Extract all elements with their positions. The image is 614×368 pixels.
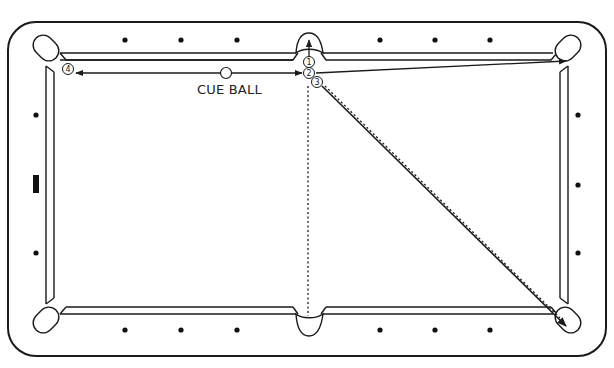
rail-left [46, 66, 54, 304]
pocket-top-left [29, 31, 63, 65]
ball-1: 1 [304, 57, 315, 68]
table-marker [33, 175, 39, 193]
pocket-top-right [551, 31, 585, 65]
pocket-bottom-side [296, 314, 323, 336]
path-3-to-bottom-right [322, 86, 566, 326]
cue-ball-label: CUE BALL [197, 82, 262, 97]
rail-right [560, 66, 568, 304]
svg-text:2: 2 [306, 69, 311, 78]
svg-text:3: 3 [314, 78, 319, 87]
pocket-bottom-left [29, 303, 63, 337]
pool-table-diagram: 1 2 3 4 [0, 0, 614, 368]
ball-4: 4 [63, 64, 74, 75]
path-2-to-top-right [316, 61, 566, 73]
svg-text:1: 1 [306, 58, 311, 67]
path-dotted-diagonal [325, 86, 560, 318]
svg-text:4: 4 [65, 65, 70, 74]
ball-3: 3 [312, 77, 323, 88]
ball-markers: 1 2 3 4 [63, 57, 323, 88]
ball-2: 2 [304, 68, 315, 79]
diamonds [33, 37, 580, 332]
pocket-bottom-right [551, 303, 585, 337]
cue-ball [221, 68, 232, 79]
